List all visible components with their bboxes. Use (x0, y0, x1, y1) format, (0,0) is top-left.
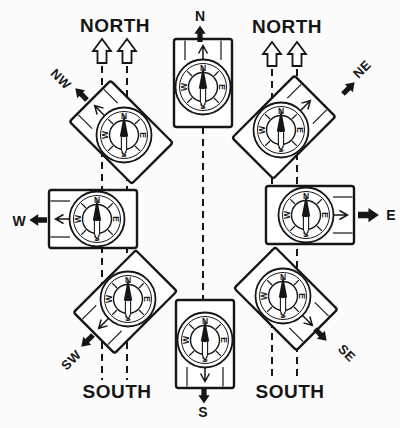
compass-dial: NESW (176, 60, 231, 115)
compass-facing-north: NESW (174, 39, 232, 127)
compass-dial: NESW (70, 192, 125, 247)
needle-pivot (304, 213, 309, 218)
needle-pivot (201, 85, 206, 90)
dial-letter-west: W (181, 335, 191, 344)
needle-south-icon (200, 88, 205, 108)
dial-letter-east: E (138, 132, 148, 138)
needle-south-icon (202, 341, 207, 361)
needle-pivot (281, 294, 286, 299)
dial-letter-west: W (179, 82, 189, 91)
direction-arrow-northwest-icon (71, 84, 91, 104)
needle-pivot (279, 128, 284, 133)
needle-pivot (203, 338, 208, 343)
dial-letter-east: E (295, 127, 305, 133)
dial-letter-west: W (100, 130, 110, 139)
south-title-right: SOUTH (256, 381, 325, 403)
north-reference-arrow-icon (93, 39, 111, 63)
needle-south-icon (94, 220, 99, 240)
compass-dial: NESW (97, 108, 152, 163)
needle-south-icon (280, 297, 285, 317)
needle-south-icon (125, 300, 130, 320)
direction-label-west: W (12, 213, 25, 229)
dial-letter-east: E (219, 337, 229, 343)
needle-south-icon (303, 216, 308, 236)
dial-letter-west: W (282, 210, 292, 219)
needle-south-icon (121, 136, 126, 156)
direction-arrow-west-icon (29, 214, 47, 226)
direction-label-south: S (198, 404, 207, 420)
direction-arrow-east-icon (358, 208, 379, 222)
compass-dial: NESW (279, 188, 334, 243)
north-title-right: NORTH (252, 16, 322, 38)
south-title-left: SOUTH (83, 381, 152, 403)
dial-letter-west: W (104, 294, 114, 303)
direction-arrow-northeast-icon (339, 78, 359, 98)
north-title-left: NORTH (80, 15, 150, 37)
compass-dial: NESW (101, 272, 156, 327)
direction-label-north: N (195, 8, 205, 24)
dial-letter-east: E (217, 84, 227, 90)
dial-letter-east: E (320, 212, 330, 218)
compass-dial: NESW (256, 269, 311, 324)
compass-facing-west: NESW (49, 190, 137, 248)
dial-letter-west: W (259, 291, 269, 300)
needle-pivot (122, 133, 127, 138)
compass-facing-east: NESW (266, 186, 354, 244)
dial-letter-east: E (111, 216, 121, 222)
dial-letter-west: W (73, 214, 83, 223)
north-reference-arrow-icon (118, 39, 136, 63)
compass-dial: NESW (178, 313, 233, 368)
needle-pivot (126, 297, 131, 302)
north-reference-arrow-icon (288, 42, 306, 66)
direction-label-east: E (386, 207, 395, 223)
needle-pivot (95, 217, 100, 222)
needle-south-icon (278, 131, 283, 151)
dial-letter-west: W (257, 125, 267, 134)
dial-letter-east: E (142, 296, 152, 302)
dial-letter-east: E (297, 293, 307, 299)
direction-arrow-south-icon (198, 387, 209, 404)
north-reference-arrow-icon (263, 42, 281, 66)
compass-facing-northeast: NESW (232, 76, 335, 179)
compass-dial: NESW (254, 103, 309, 158)
compass-directions-figure: NESWNESWNESWNESWNESWNESWNESWNESW NORTH N… (0, 0, 400, 428)
compass-facing-south: NESW (176, 300, 234, 388)
